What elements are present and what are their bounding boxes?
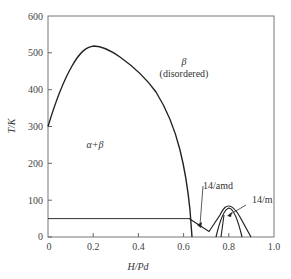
phase-diagram-chart: 0 100 200 300 400 500 600 0 0.2 0.4 0.6 … (0, 0, 291, 279)
y-tick-600: 600 (28, 11, 43, 22)
x-tick-0-6: 0.6 (177, 241, 190, 252)
x-tick-labels: 0 0.2 0.4 0.6 0.8 1.0 (47, 241, 281, 252)
alpha-beta-label: α+β (87, 139, 104, 150)
x-tick-0-2: 0.2 (87, 241, 100, 252)
beta-label: β (181, 56, 187, 67)
y-tick-0: 0 (38, 231, 43, 242)
plot-frame (48, 16, 274, 237)
y-tick-100: 100 (28, 195, 43, 206)
x-tick-0-8: 0.8 (223, 241, 236, 252)
y-tick-labels: 0 100 200 300 400 500 600 (28, 11, 43, 243)
x-axis (93, 233, 229, 237)
y-axis (48, 53, 52, 237)
i4m-arrow-head (227, 212, 232, 217)
x-axis-title: H/Pd (126, 261, 149, 272)
y-tick-300: 300 (28, 121, 43, 132)
y-tick-200: 200 (28, 158, 43, 169)
y-tick-500: 500 (28, 47, 43, 58)
i4amd-label: 14/amd (203, 180, 233, 191)
i4amd-arrow-line (200, 186, 203, 225)
i4m-inner-dome-curve (216, 208, 242, 237)
i4m-label: 14/m (252, 194, 273, 205)
y-tick-400: 400 (28, 84, 43, 95)
disordered-label: (disordered) (160, 68, 209, 80)
x-tick-1-0: 1.0 (268, 241, 281, 252)
x-tick-0-4: 0.4 (132, 241, 145, 252)
x-tick-0: 0 (47, 241, 52, 252)
y-axis-title: T/K (6, 117, 17, 133)
